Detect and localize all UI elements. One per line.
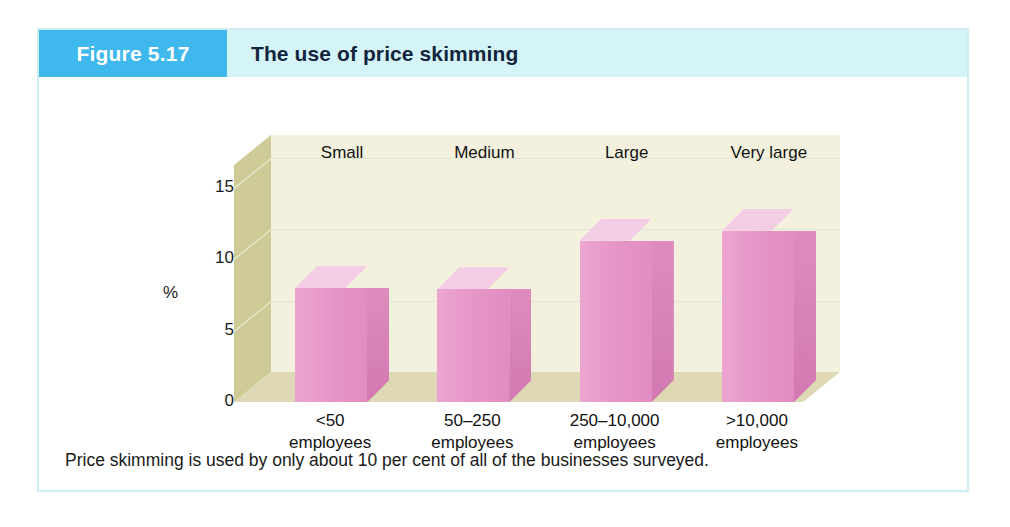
bar-top-face-1 — [295, 266, 367, 288]
bar-top-face-2 — [437, 267, 509, 289]
bar-1[interactable] — [295, 266, 367, 402]
x-axis-label-4: >10,000employees — [686, 410, 828, 454]
bar-top-face-3 — [580, 219, 652, 241]
x-axis-label-2: 50–250employees — [401, 410, 543, 454]
category-heading-1: Small — [271, 143, 413, 163]
figure-header: Figure 5.17 The use of price skimming — [39, 30, 967, 77]
bar-side-face-4 — [794, 231, 816, 402]
bar-front-face-3 — [580, 241, 652, 402]
y-axis-tick-15: 15 — [176, 177, 234, 197]
figure-number-badge: Figure 5.17 — [39, 30, 227, 77]
x-axis-label-line1-4: >10,000 — [686, 410, 828, 432]
y-axis-tick-10: 10 — [176, 248, 234, 268]
bar-3[interactable] — [580, 219, 652, 402]
bar-2[interactable] — [437, 267, 509, 402]
figure-number-label: Figure 5.17 — [76, 42, 189, 66]
figure-title: The use of price skimming — [227, 30, 967, 77]
y-axis-tick-0: 0 — [176, 391, 234, 411]
y-axis-ticks: 051015 — [176, 77, 234, 447]
bar-front-face-1 — [295, 288, 367, 402]
plot-area: SmallMediumLargeVery large — [234, 135, 840, 402]
category-heading-4: Very large — [698, 143, 840, 163]
figure-caption: Price skimming is used by only about 10 … — [65, 450, 945, 471]
plot-left-wall — [234, 135, 271, 402]
bar-front-face-2 — [437, 289, 509, 402]
x-axis-label-line1-3: 250–10,000 — [544, 410, 686, 432]
category-heading-3: Large — [556, 143, 698, 163]
figure-box: Figure 5.17 The use of price skimming % … — [37, 28, 969, 492]
chart-region: % 051015 SmallMediumLargeVery large <50e… — [39, 77, 967, 447]
x-axis-label-line1-1: <50 — [259, 410, 401, 432]
x-axis-label-line1-2: 50–250 — [401, 410, 543, 432]
bar-side-face-3 — [652, 241, 674, 402]
bar-front-face-4 — [722, 231, 794, 402]
y-axis-tick-5: 5 — [176, 320, 234, 340]
x-axis-label-1: <50employees — [259, 410, 401, 454]
bar-4[interactable] — [722, 209, 794, 402]
x-axis-label-3: 250–10,000employees — [544, 410, 686, 454]
category-heading-2: Medium — [413, 143, 555, 163]
bar-top-face-4 — [722, 209, 794, 231]
